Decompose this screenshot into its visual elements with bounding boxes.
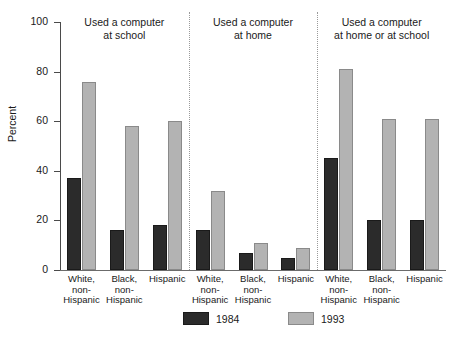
category-label-line: Hispanic bbox=[274, 274, 317, 285]
y-axis-tick-label: 20 bbox=[0, 214, 48, 224]
category-label-line: Hispanic bbox=[146, 274, 189, 285]
y-axis-tick-label: 100 bbox=[0, 16, 48, 26]
category-label: White,non-Hispanic bbox=[60, 274, 103, 306]
category-label-line: Hispanic bbox=[403, 274, 446, 285]
category-label: Hispanic bbox=[403, 274, 446, 285]
legend-swatch-icon bbox=[183, 312, 209, 325]
bars-layer bbox=[60, 22, 446, 270]
bar-1993-3-1 bbox=[339, 69, 353, 270]
category-label: Black,non-Hispanic bbox=[103, 274, 146, 306]
category-label-line: Hispanic bbox=[60, 295, 103, 306]
bar-1993-1-3 bbox=[168, 121, 182, 270]
category-label-line: Black, bbox=[232, 274, 275, 285]
y-axis-tick-label: 60 bbox=[0, 115, 48, 125]
bar-1993-1-1 bbox=[82, 82, 96, 270]
category-label-line: Hispanic bbox=[317, 295, 360, 306]
category-label: White,non-Hispanic bbox=[189, 274, 232, 306]
bar-chart: Percent 020406080100 Used a computerat s… bbox=[0, 0, 459, 347]
bar-1993-1-2 bbox=[125, 126, 139, 270]
category-label-line: Black, bbox=[103, 274, 146, 285]
bar-1993-3-3 bbox=[425, 119, 439, 270]
category-label-line: White, bbox=[189, 274, 232, 285]
category-label: Black,non-Hispanic bbox=[232, 274, 275, 306]
category-label: Hispanic bbox=[274, 274, 317, 285]
category-label: Black,non-Hispanic bbox=[360, 274, 403, 306]
bar-1984-3-3 bbox=[410, 220, 424, 270]
bar-1984-2-2 bbox=[239, 253, 253, 270]
bar-1984-2-3 bbox=[281, 258, 295, 270]
bar-1993-2-1 bbox=[211, 191, 225, 270]
bar-1993-2-2 bbox=[254, 243, 268, 270]
bar-1984-2-1 bbox=[196, 230, 210, 270]
category-label-line: Hispanic bbox=[189, 295, 232, 306]
legend-label: 1984 bbox=[216, 313, 239, 325]
bar-1984-3-2 bbox=[367, 220, 381, 270]
y-axis-tick-label: 40 bbox=[0, 165, 48, 175]
chart-legend: 19841993 bbox=[0, 312, 459, 334]
bar-1984-3-1 bbox=[324, 158, 338, 270]
y-axis-tick-label: 0 bbox=[0, 264, 48, 274]
bar-1993-3-2 bbox=[382, 119, 396, 270]
category-label-line: Black, bbox=[360, 274, 403, 285]
legend-swatch-icon bbox=[288, 312, 314, 325]
category-label-line: Hispanic bbox=[360, 295, 403, 306]
bar-1993-2-3 bbox=[296, 248, 310, 270]
category-label: Hispanic bbox=[146, 274, 189, 285]
category-label-line: White, bbox=[317, 274, 360, 285]
y-axis-tick-label: 80 bbox=[0, 66, 48, 76]
category-label-line: Hispanic bbox=[232, 295, 275, 306]
category-label-line: Hispanic bbox=[103, 295, 146, 306]
category-label-line: White, bbox=[60, 274, 103, 285]
category-label: White,non-Hispanic bbox=[317, 274, 360, 306]
bar-1984-1-3 bbox=[153, 225, 167, 270]
legend-label: 1993 bbox=[321, 313, 344, 325]
legend-item-1984[interactable]: 1984 bbox=[183, 312, 239, 325]
legend-item-1993[interactable]: 1993 bbox=[288, 312, 344, 325]
bar-1984-1-1 bbox=[67, 178, 81, 270]
bar-1984-1-2 bbox=[110, 230, 124, 270]
x-axis-line bbox=[60, 270, 446, 271]
